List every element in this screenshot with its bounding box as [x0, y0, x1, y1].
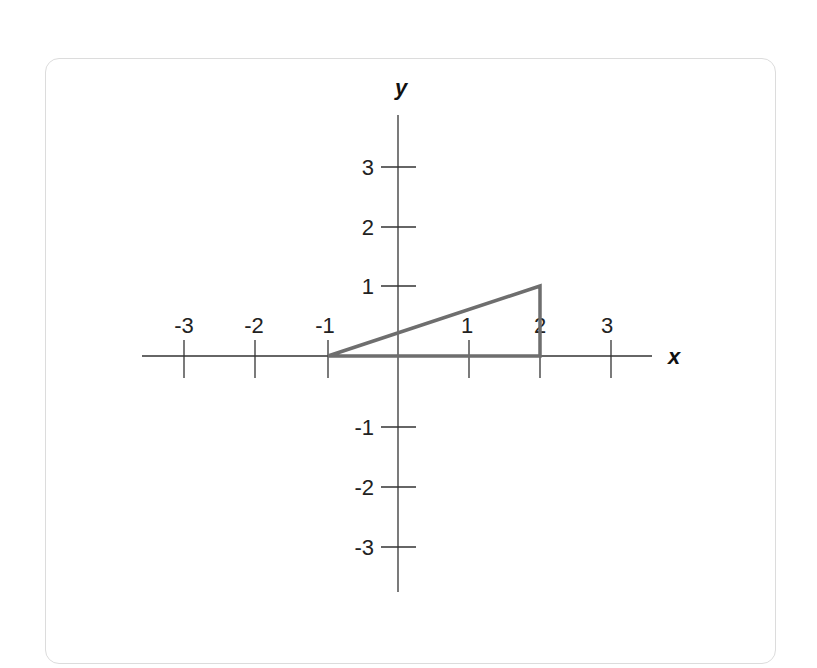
x-tick-label: 1: [461, 313, 473, 338]
coordinate-plane: -3 -2 -1 1 2 3 3 2 1 -1 -2 -3 x y: [0, 0, 817, 668]
x-axis-label: x: [667, 344, 681, 369]
x-tick-label: -1: [315, 313, 335, 338]
y-tick-label: -3: [354, 535, 374, 560]
y-tick-label: -2: [354, 475, 374, 500]
y-tick-label: 1: [362, 274, 374, 299]
y-tick-label: 2: [362, 215, 374, 240]
triangle-shape: [328, 286, 540, 356]
y-axis-label: y: [394, 75, 409, 100]
x-tick-label: -3: [174, 313, 194, 338]
y-tick-label: -1: [354, 415, 374, 440]
x-tick-label: -2: [244, 313, 264, 338]
x-tick-label: 3: [601, 313, 613, 338]
y-tick-label: 3: [362, 155, 374, 180]
